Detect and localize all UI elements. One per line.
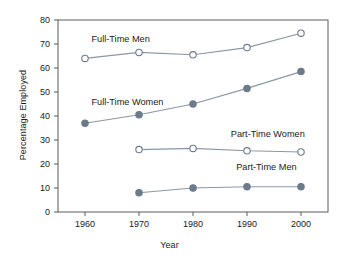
data-point-marker	[82, 55, 88, 61]
data-point-marker	[298, 184, 304, 190]
y-axis-tick-label: 0	[28, 207, 50, 217]
plot-frame	[58, 20, 328, 212]
data-point-marker	[136, 49, 142, 55]
data-point-marker	[244, 85, 250, 91]
data-point-marker	[298, 149, 304, 155]
y-axis-tick-label: 80	[28, 15, 50, 25]
x-axis-title: Year	[0, 240, 339, 250]
data-point-marker	[244, 184, 250, 190]
y-axis-tick-label: 70	[28, 39, 50, 49]
x-axis-tick-label: 1980	[173, 219, 213, 229]
data-point-marker	[244, 148, 250, 154]
data-point-marker	[136, 146, 142, 152]
x-axis-tick-label: 1990	[227, 219, 267, 229]
y-axis-tick-label: 10	[28, 183, 50, 193]
data-point-marker	[136, 190, 142, 196]
series-label: Full-Time Men	[91, 34, 149, 44]
data-point-marker	[298, 68, 304, 74]
y-axis-tick-label: 40	[28, 111, 50, 121]
data-point-marker	[82, 120, 88, 126]
y-axis-tick-label: 50	[28, 87, 50, 97]
y-axis-title: Percentage Employed	[18, 55, 28, 175]
x-axis-tick-label: 2000	[281, 219, 321, 229]
data-point-marker	[298, 30, 304, 36]
data-point-marker	[136, 112, 142, 118]
series-label: Part-Time Men	[236, 162, 296, 172]
data-point-marker	[244, 44, 250, 50]
data-point-marker	[190, 52, 196, 58]
y-axis-tick-label: 30	[28, 135, 50, 145]
x-axis-tick-label: 1960	[65, 219, 105, 229]
series-label: Full-Time Women	[91, 97, 163, 107]
chart-container: Percentage Employed Year 010203040506070…	[0, 0, 339, 263]
data-point-marker	[190, 145, 196, 151]
y-axis-tick-label: 60	[28, 63, 50, 73]
x-axis-tick-label: 1970	[119, 219, 159, 229]
y-axis-tick-label: 20	[28, 159, 50, 169]
series-label: Part-Time Women	[231, 129, 305, 139]
data-point-marker	[190, 185, 196, 191]
data-point-marker	[190, 101, 196, 107]
